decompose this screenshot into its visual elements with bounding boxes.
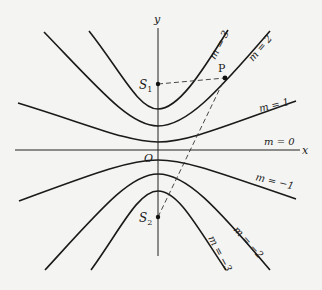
hyperbola-diagram: x y O S1 S2 P m = 3 m = 2 m = 1 m = 0 m … [0, 0, 322, 290]
label-m-3: m = 3 [207, 29, 231, 61]
dashed-s1-p [158, 78, 225, 84]
y-axis-label: y [153, 13, 161, 26]
x-axis-label: x [302, 144, 309, 157]
point-s1 [156, 82, 160, 86]
label-m-2: m = 2 [246, 33, 274, 64]
label-p: P [218, 62, 226, 75]
label-m-0: m = 0 [264, 136, 295, 147]
curve-m-2 [44, 31, 270, 126]
point-s2 [156, 215, 160, 219]
dashed-s2-p [158, 78, 225, 217]
curve-m-1 [18, 101, 296, 142]
label-s2: S2 [139, 211, 152, 227]
label-m-neg3: m = −3 [206, 234, 234, 274]
label-m-neg1: m = −1 [255, 171, 295, 191]
label-s1: S1 [139, 78, 152, 94]
point-p [223, 76, 228, 81]
label-m-neg2: m = −2 [232, 224, 266, 260]
origin-label: O [144, 152, 153, 165]
label-m-1: m = 1 [258, 96, 290, 114]
